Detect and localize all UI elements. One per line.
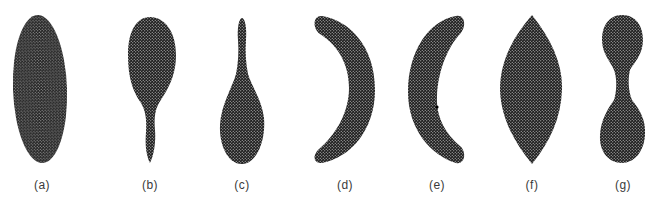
- label-g: (g): [615, 178, 631, 192]
- shape-e-dot: [435, 105, 438, 108]
- label-d: (d): [337, 178, 353, 192]
- shape-c-teardrop: [220, 18, 264, 164]
- shapes-canvas: [0, 0, 661, 203]
- label-c: (c): [234, 178, 250, 192]
- shape-f-lens: [500, 15, 562, 164]
- label-a: (a): [34, 178, 50, 192]
- shape-g-dumbbell: [600, 15, 645, 163]
- label-f: (f): [526, 178, 539, 192]
- shape-e-crescent: [408, 16, 464, 163]
- shape-b-spoon: [128, 17, 176, 163]
- shape-d-crescent: [315, 16, 375, 163]
- shape-a-ellipse: [10, 14, 69, 164]
- shape-figure: (a) (b) (c) (d) (e) (f) (g): [0, 0, 661, 203]
- label-e: (e): [429, 178, 445, 192]
- label-b: (b): [142, 178, 158, 192]
